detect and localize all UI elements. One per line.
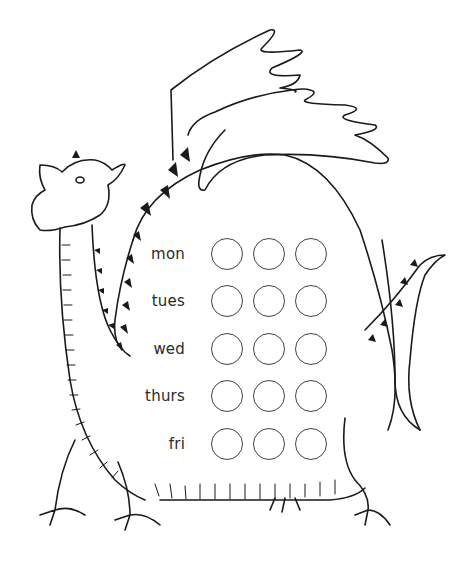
check-circle[interactable] [295, 333, 327, 365]
check-circle[interactable] [253, 428, 285, 460]
dragon-illustration [0, 0, 473, 567]
day-label: wed [153, 340, 185, 358]
back-wing [171, 30, 302, 160]
check-circle[interactable] [253, 333, 285, 365]
check-circle[interactable] [211, 333, 243, 365]
day-label: fri [169, 435, 185, 453]
belly-line [160, 488, 365, 500]
check-circle[interactable] [211, 238, 243, 270]
day-label: tues [152, 292, 185, 310]
day-label: mon [151, 245, 185, 263]
check-circle[interactable] [295, 285, 327, 317]
dragon-head [32, 160, 125, 231]
row-fri: fri [0, 428, 473, 462]
row-thurs: thurs [0, 380, 473, 414]
check-circle[interactable] [253, 285, 285, 317]
row-wed: wed [0, 333, 473, 367]
day-label: thurs [145, 387, 185, 405]
check-circle[interactable] [211, 380, 243, 412]
check-circle[interactable] [295, 238, 327, 270]
check-circle[interactable] [295, 380, 327, 412]
check-circle[interactable] [211, 428, 243, 460]
hind-leg-left [270, 498, 300, 512]
check-circle[interactable] [211, 285, 243, 317]
row-tues: tues [0, 285, 473, 319]
check-circle[interactable] [295, 428, 327, 460]
check-circle[interactable] [253, 380, 285, 412]
front-wing [188, 89, 388, 190]
check-circle[interactable] [253, 238, 285, 270]
row-mon: mon [0, 238, 473, 272]
